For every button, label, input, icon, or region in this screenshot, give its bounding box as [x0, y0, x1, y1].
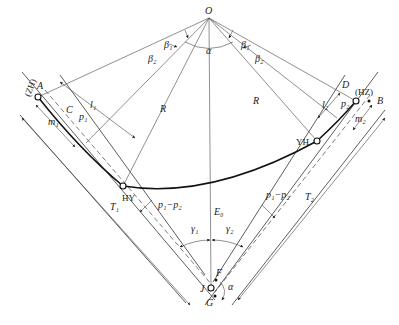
- label-m2: m₂: [355, 113, 366, 124]
- label-d: D: [341, 79, 350, 90]
- label-beta2-right: β₂: [254, 53, 264, 64]
- label-m1: m₁: [48, 116, 59, 127]
- point-f: [215, 279, 218, 282]
- point-hy: [120, 183, 126, 189]
- radial-lines: [38, 18, 356, 287]
- label-e0: E₀: [213, 206, 224, 217]
- label-beta1-right: β₁: [240, 39, 249, 50]
- label-r-left: R: [159, 103, 166, 114]
- label-l2: l₂: [322, 99, 329, 110]
- label-g: G: [206, 297, 213, 308]
- point-yh: [314, 138, 320, 144]
- label-t1: T₁: [110, 201, 119, 212]
- point-b-dot: [368, 100, 371, 103]
- point-j: [208, 285, 214, 291]
- label-l1: l₁: [90, 99, 96, 110]
- right-tangent-lines: [205, 72, 385, 305]
- label-alpha-deflection: α: [228, 281, 234, 292]
- point-hz: [353, 98, 359, 104]
- label-yh: YH: [296, 137, 309, 147]
- label-p1: p₁: [78, 111, 87, 122]
- label-o: O: [205, 5, 212, 16]
- point-zh: [35, 94, 41, 100]
- gamma1-arc: [180, 240, 210, 247]
- curve-diagram: O α β₁ β₂ β₁ β₂ R R A (ZH) C p₁ l₁ m₁ HY…: [0, 0, 399, 325]
- label-gamma1: γ₁: [191, 223, 198, 234]
- label-p2: p₂: [340, 98, 350, 109]
- dimension-lines: [22, 82, 385, 305]
- label-p1p2-left: p₁−p₂: [157, 199, 182, 210]
- label-p1p2-right: p₁−p₂: [265, 189, 290, 200]
- label-beta1-left: β₁: [163, 39, 172, 50]
- label-c: C: [66, 104, 73, 115]
- label-t2: T₂: [305, 191, 315, 202]
- gamma2-arc: [212, 240, 243, 247]
- point-g: [214, 295, 217, 298]
- label-j: J: [200, 283, 205, 294]
- label-hy: HY: [122, 193, 135, 203]
- label-r-right: R: [252, 95, 259, 106]
- label-hz: (HZ): [355, 87, 373, 97]
- label-alpha: α: [206, 45, 212, 56]
- label-b: B: [377, 95, 383, 106]
- label-gamma2: γ₂: [226, 223, 234, 234]
- label-beta2-left: β₂: [147, 53, 157, 64]
- label-f: F: [215, 267, 223, 278]
